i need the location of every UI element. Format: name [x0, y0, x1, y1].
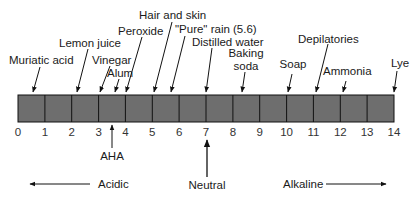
tick-11: 11: [307, 126, 319, 138]
ph-bar: [18, 95, 394, 122]
label-muriatic-acid: Muriatic acid: [9, 54, 74, 66]
tick-8: 8: [230, 126, 236, 138]
label-pure-rain: "Pure" rain (5.6): [175, 23, 257, 35]
tick-labels: 0 1 2 3 4 5 6 7 8 9 10 11 12 13 14: [15, 126, 401, 138]
tick-5: 5: [149, 126, 155, 138]
tick-14: 14: [388, 126, 401, 138]
tick-6: 6: [176, 126, 182, 138]
tick-1: 1: [42, 126, 48, 138]
ph-scale-diagram: 0 1 2 3 4 5 6 7 8 9 10 11 12 13 14 Muria…: [0, 0, 418, 197]
label-vinegar: Vinegar: [92, 54, 132, 66]
tick-4: 4: [122, 126, 129, 138]
label-neutral: Neutral: [188, 179, 225, 191]
label-depilatories: Depilatories: [298, 33, 359, 45]
label-lemon-juice: Lemon juice: [59, 37, 121, 49]
tick-10: 10: [280, 126, 293, 138]
label-alkaline: Alkaline: [283, 178, 323, 190]
label-peroxide: Peroxide: [118, 25, 163, 37]
label-hair-and-skin: Hair and skin: [139, 9, 206, 21]
label-lye: Lye: [391, 57, 409, 69]
label-alum: Alum: [107, 67, 133, 79]
tick-9: 9: [256, 126, 262, 138]
tick-0: 0: [15, 126, 21, 138]
tick-13: 13: [361, 126, 374, 138]
tick-7: 7: [203, 126, 209, 138]
label-acidic: Acidic: [98, 178, 129, 190]
label-soap: Soap: [280, 58, 307, 70]
label-soda: soda: [234, 60, 260, 72]
tick-3: 3: [95, 126, 101, 138]
label-baking: Baking: [228, 47, 263, 59]
tick-2: 2: [68, 126, 74, 138]
label-ammonia: Ammonia: [323, 65, 372, 77]
label-aha: AHA: [100, 150, 124, 162]
tick-12: 12: [334, 126, 347, 138]
